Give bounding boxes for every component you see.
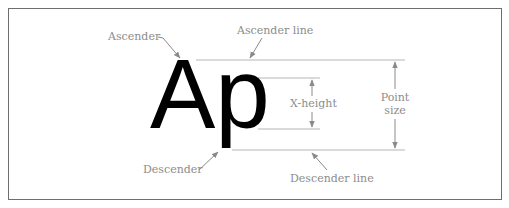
descender-line-arrow-icon: [312, 153, 327, 170]
ascender-label: Ascender: [107, 30, 161, 43]
descender-line-label: Descender line: [290, 172, 374, 185]
x-height-label: X-height: [290, 97, 337, 110]
descender-label: Descender: [143, 163, 203, 176]
point-size-label-line2: size: [384, 104, 405, 117]
ascender-line-label: Ascender line: [236, 24, 313, 37]
descender-arrow-icon: [199, 152, 218, 170]
point-size-label-line1: Point: [381, 91, 410, 104]
typography-diagram: Ap Ascender Ascender line X-height Point…: [0, 0, 509, 208]
